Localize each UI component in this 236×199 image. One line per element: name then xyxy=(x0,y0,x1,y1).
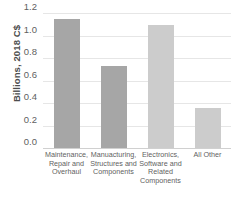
y-tick-label: 1.0 xyxy=(3,24,37,35)
bar-chart: Billions, 2018 C$ 1.21.00.80.60.40.20.0 … xyxy=(0,0,236,199)
y-tick-label: 1.2 xyxy=(3,1,37,12)
y-tick-label: 0.6 xyxy=(3,69,37,80)
x-category-label-line: All Other xyxy=(180,151,236,160)
gridline xyxy=(43,148,231,149)
y-tick-label: 0.8 xyxy=(3,46,37,57)
x-category-label: All Other xyxy=(180,151,236,160)
gridline xyxy=(43,13,231,14)
y-tick-label: 0.0 xyxy=(3,136,37,147)
plot-area xyxy=(43,13,231,148)
bar xyxy=(54,19,80,148)
y-tick-label: 0.2 xyxy=(3,114,37,125)
bar xyxy=(148,25,174,148)
y-tick-label: 0.4 xyxy=(3,91,37,102)
y-axis-title: Billions, 2018 C$ xyxy=(11,4,22,124)
x-axis-category-labels: Maintenance,Repair andOverhaulManuacturi… xyxy=(43,151,231,199)
bar xyxy=(195,108,221,149)
bar xyxy=(101,66,127,148)
x-category-label-line: Components xyxy=(133,177,189,186)
